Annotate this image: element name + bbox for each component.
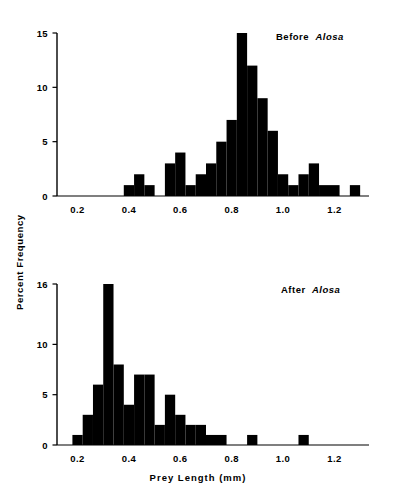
- histogram-bar: [185, 425, 195, 445]
- histogram-bar: [175, 415, 185, 445]
- histogram-bar: [196, 174, 206, 196]
- histogram-bar: [175, 153, 185, 196]
- histogram-bar: [155, 425, 165, 445]
- histogram-bar: [216, 142, 226, 196]
- chart-title-before: Before Alosa: [276, 31, 344, 42]
- y-tick-label: 5: [42, 136, 48, 147]
- histogram-bar: [134, 375, 144, 445]
- chart-title-prefix: After: [281, 284, 312, 295]
- histogram-bar: [237, 33, 247, 196]
- y-tick-label: 0: [42, 440, 48, 451]
- chart-title-prefix: Before: [276, 31, 315, 42]
- histogram-bar: [134, 174, 144, 196]
- chart-title-species: Alosa: [312, 284, 340, 295]
- histogram-bar: [257, 98, 267, 196]
- histogram-bar: [268, 131, 278, 196]
- histogram-bar: [114, 365, 124, 446]
- histogram-bar: [350, 185, 360, 196]
- x-tick-label: 0.4: [122, 453, 137, 464]
- x-tick-label: 0.6: [173, 453, 187, 464]
- histogram-bar: [309, 163, 319, 196]
- y-tick-label: 0: [42, 191, 48, 202]
- histogram-bar: [206, 163, 216, 196]
- histogram-bar: [288, 185, 298, 196]
- x-tick-label: 0.2: [70, 204, 84, 215]
- x-tick-label: 1.0: [276, 453, 290, 464]
- histogram-bar: [93, 385, 103, 445]
- histogram-bar: [247, 66, 257, 196]
- histogram-bar: [319, 185, 340, 196]
- y-tick-label: 15: [37, 28, 49, 39]
- histogram-bar: [72, 435, 82, 445]
- x-axis-title: Prey Length (mm): [98, 472, 298, 483]
- histogram-bar: [103, 284, 113, 445]
- histogram-bar: [298, 435, 308, 445]
- x-tick-label: 0.8: [224, 204, 238, 215]
- histogram-bar: [165, 163, 175, 196]
- x-tick-label: 0.4: [122, 204, 137, 215]
- histogram-bar: [83, 415, 93, 445]
- histogram-bar: [196, 425, 206, 445]
- histogram-bar: [165, 395, 175, 445]
- x-tick-label: 0.8: [224, 453, 238, 464]
- histogram-bar: [185, 185, 195, 196]
- x-tick-label: 1.0: [276, 204, 290, 215]
- y-tick-label: 16: [37, 279, 48, 290]
- histogram-bar: [124, 185, 134, 196]
- histogram-bar: [144, 185, 154, 196]
- x-tick-label: 1.2: [327, 453, 341, 464]
- histogram-bar: [278, 174, 288, 196]
- y-tick-label: 5: [42, 389, 48, 400]
- x-tick-label: 1.2: [327, 204, 341, 215]
- y-tick-label: 10: [37, 339, 48, 350]
- histogram-bar: [298, 174, 308, 196]
- histogram-bar: [227, 120, 237, 196]
- x-tick-label: 0.2: [70, 453, 84, 464]
- histogram-bar: [124, 405, 134, 445]
- figure-container: Percent Frequency 0510150.20.40.60.81.01…: [0, 0, 396, 502]
- histogram-bar: [206, 435, 227, 445]
- chart-title-species: Alosa: [315, 31, 343, 42]
- histogram-bar: [144, 375, 154, 445]
- chart-title-after: After Alosa: [281, 284, 340, 295]
- x-tick-label: 0.6: [173, 204, 187, 215]
- y-tick-label: 10: [37, 82, 48, 93]
- histogram-bar: [247, 435, 257, 445]
